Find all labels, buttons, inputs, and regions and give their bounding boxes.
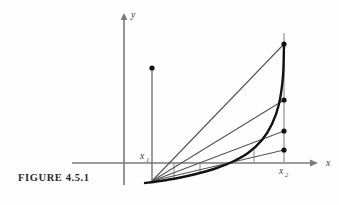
y-axis-arrowhead [121, 13, 128, 20]
x2-label-subscript: 2 [285, 171, 289, 178]
dot-third [281, 128, 286, 133]
x-axis-label: x [325, 158, 331, 168]
dot-top [281, 41, 286, 46]
figure-container: x y x 1 x 2 FIGURE 4.5.1 [0, 0, 339, 205]
secant-chord-group [152, 44, 284, 181]
y-axis-label: y [130, 10, 136, 20]
dot-fourth [281, 147, 286, 152]
x1-tick-label: x 1 [139, 151, 149, 163]
x1-label-base: x [139, 151, 145, 161]
dot-x1-top [149, 65, 154, 70]
x-axis-arrowhead [310, 160, 318, 167]
x1-label-subscript: 1 [146, 156, 149, 163]
figure-caption: FIGURE 4.5.1 [18, 172, 90, 183]
x2-label-base: x [278, 166, 284, 176]
x2-tick-label: x 2 [278, 166, 289, 178]
y-axis-group [121, 13, 128, 185]
dot-second [281, 97, 286, 102]
chord-4 [152, 150, 284, 181]
